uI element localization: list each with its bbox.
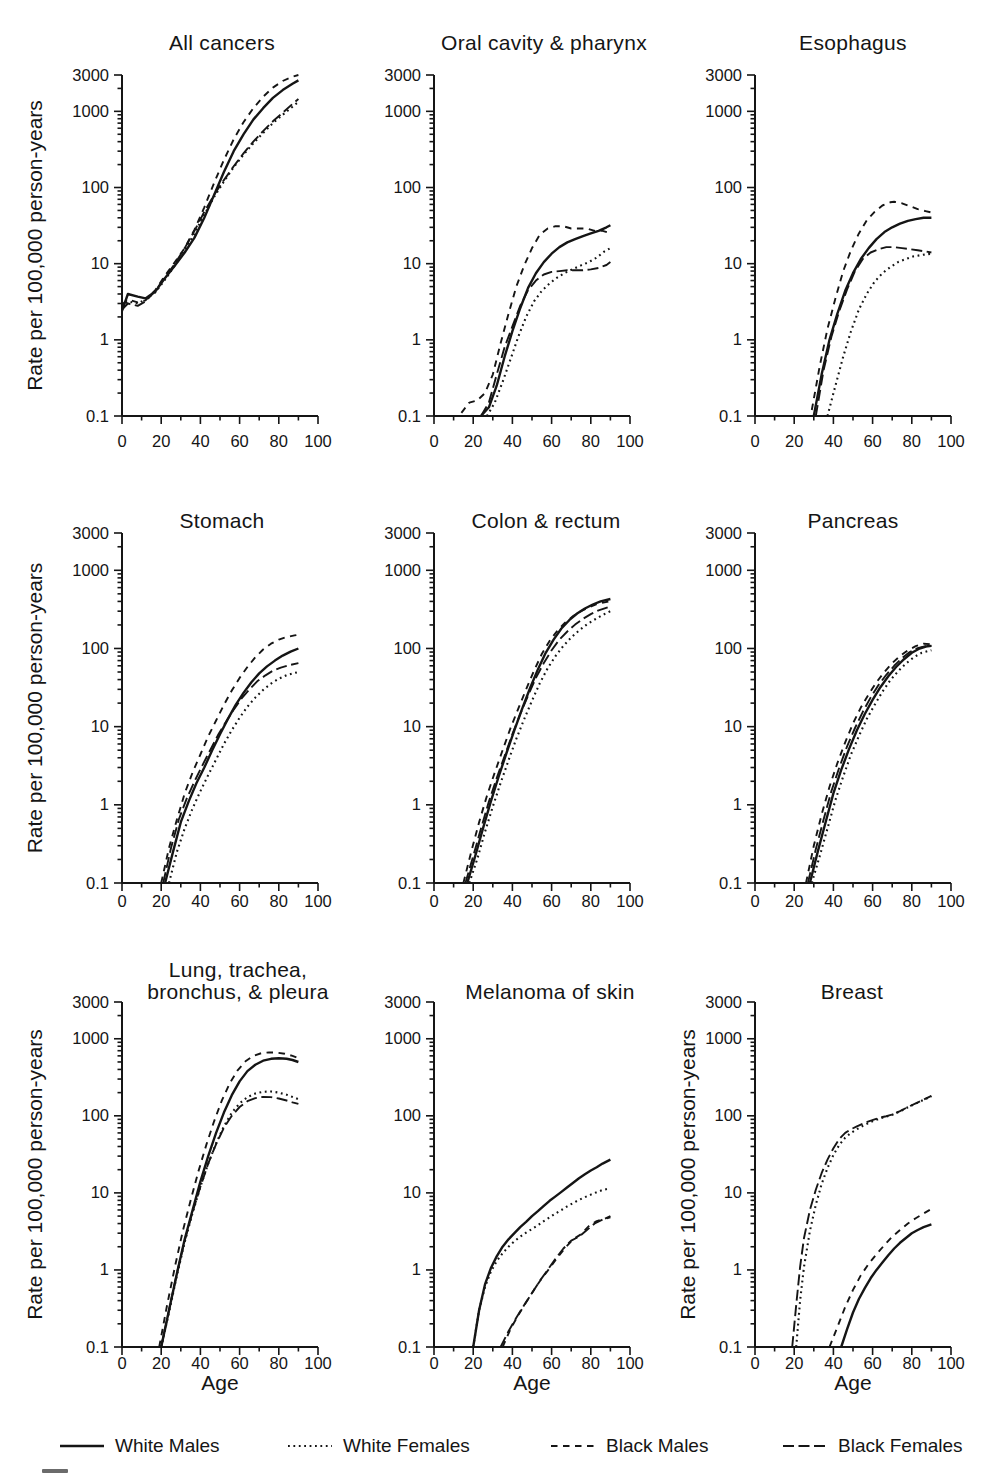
y-tick-label: 100 (393, 178, 421, 196)
series-line-black-females (465, 606, 610, 883)
x-tick-label: 20 (464, 432, 482, 450)
x-tick-label: 60 (542, 892, 560, 910)
series-line-black-females (808, 646, 932, 883)
x-tick-label: 40 (503, 432, 521, 450)
chart-title: Colon & rectum (472, 509, 621, 532)
series-line-white-females (812, 650, 932, 883)
chart-title: All cancers (169, 31, 275, 54)
chart-title: Lung, trachea, (169, 958, 307, 981)
legend-item-black-females: Black Females (782, 1429, 963, 1463)
x-tick-label: 60 (542, 1354, 560, 1372)
y-tick-label: 1 (412, 330, 421, 348)
chart-title: Esophagus (799, 31, 907, 54)
x-axis-label: Age (201, 1371, 238, 1394)
x-tick-label: 80 (903, 1354, 921, 1372)
legend-item-black-males: Black Males (550, 1429, 708, 1463)
y-tick-label: 3000 (705, 66, 742, 84)
chart-title: Breast (821, 980, 884, 1003)
x-tick-label: 60 (863, 892, 881, 910)
series-line-white-males (481, 225, 610, 416)
y-tick-label: 3000 (705, 993, 742, 1011)
chart-canvas: 300010001001010.1020406080100Pancreas (633, 470, 1001, 940)
y-tick-label: 10 (91, 717, 109, 735)
series-line-black-males (161, 635, 298, 883)
chart-title: Oral cavity & pharynx (441, 31, 647, 54)
y-tick-label: 10 (724, 254, 742, 272)
x-tick-label: 80 (582, 432, 600, 450)
y-tick-label: 10 (403, 254, 421, 272)
x-tick-label: 20 (785, 432, 803, 450)
white-males-line-sample (59, 1436, 105, 1456)
x-tick-label: 60 (863, 1354, 881, 1372)
x-tick-label: 100 (937, 432, 965, 450)
x-tick-label: 80 (582, 892, 600, 910)
x-tick-label: 80 (582, 1354, 600, 1372)
y-tick-label: 10 (724, 1183, 742, 1201)
series-line-black-males (122, 75, 298, 305)
y-tick-label: 0.1 (86, 874, 109, 892)
series-line-black-males (812, 202, 932, 410)
y-tick-label: 10 (91, 1183, 109, 1201)
chart-canvas: 300010001001010.1020406080100Melanoma of… (312, 940, 680, 1410)
y-axis-label: Rate per 100,000 person-years (23, 1029, 46, 1320)
chart-title: Stomach (180, 509, 265, 532)
y-tick-label: 1 (100, 330, 109, 348)
series-line-white-females (796, 1096, 931, 1347)
y-tick-label: 1000 (384, 561, 421, 579)
y-tick-label: 1000 (705, 1029, 742, 1047)
chart-title: bronchus, & pleura (147, 980, 329, 1003)
black-females-line-sample (782, 1436, 828, 1456)
y-tick-label: 100 (81, 639, 109, 657)
y-tick-label: 0.1 (398, 874, 421, 892)
black-males-line-sample (550, 1436, 596, 1456)
chart-esophagus: 300010001001010.1020406080100Esophagus (633, 0, 1001, 470)
x-tick-label: 40 (191, 892, 209, 910)
x-tick-label: 40 (824, 432, 842, 450)
x-tick-label: 0 (429, 1354, 438, 1372)
series-line-black-males (461, 226, 610, 413)
legend-label: White Females (343, 1435, 470, 1457)
y-tick-label: 10 (724, 717, 742, 735)
legend-label: White Males (115, 1435, 220, 1457)
series-line-black-males (503, 1216, 611, 1347)
y-tick-label: 1 (733, 330, 742, 348)
series-line-white-males (473, 1160, 610, 1347)
y-tick-label: 1000 (384, 102, 421, 120)
chart-title: Pancreas (807, 509, 898, 532)
chart-canvas: 300010001001010.1020406080100BreastRate … (633, 940, 1001, 1410)
legend-label: Black Males (606, 1435, 708, 1457)
y-tick-label: 0.1 (398, 1338, 421, 1356)
x-tick-label: 20 (464, 1354, 482, 1372)
y-tick-label: 100 (81, 1106, 109, 1124)
x-axis-label: Age (513, 1371, 550, 1394)
x-tick-label: 60 (230, 432, 248, 450)
chart-oral-cavity-pharynx: 300010001001010.1020406080100Oral cavity… (312, 0, 680, 470)
series-line-black-females (792, 1096, 931, 1347)
x-tick-label: 20 (785, 1354, 803, 1372)
y-tick-label: 3000 (705, 524, 742, 542)
y-tick-label: 1000 (72, 561, 109, 579)
y-tick-label: 0.1 (719, 874, 742, 892)
y-tick-label: 100 (393, 1106, 421, 1124)
chart-pancreas: 300010001001010.1020406080100Pancreas (633, 470, 1001, 940)
x-tick-label: 0 (750, 432, 759, 450)
series-line-white-males (165, 649, 298, 884)
x-tick-label: 60 (863, 432, 881, 450)
chart-melanoma-of-skin: 300010001001010.1020406080100Melanoma of… (312, 940, 680, 1410)
y-tick-label: 1000 (705, 561, 742, 579)
white-females-line-sample (287, 1436, 333, 1456)
chart-title: Melanoma of skin (465, 980, 634, 1003)
x-tick-label: 60 (542, 432, 560, 450)
y-tick-label: 1 (733, 1260, 742, 1278)
x-tick-label: 40 (503, 892, 521, 910)
x-tick-label: 80 (903, 892, 921, 910)
y-tick-label: 1000 (384, 1029, 421, 1047)
series-line-black-females (481, 262, 610, 416)
y-tick-label: 1000 (72, 1029, 109, 1047)
x-tick-label: 20 (152, 892, 170, 910)
y-tick-label: 1 (412, 795, 421, 813)
x-tick-label: 20 (152, 1354, 170, 1372)
x-tick-label: 80 (270, 432, 288, 450)
y-axis-label: Rate per 100,000 person-years (23, 563, 46, 854)
y-tick-label: 3000 (72, 66, 109, 84)
